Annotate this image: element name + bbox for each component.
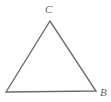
triangle-shape	[0, 0, 111, 102]
vertex-label-c: C	[45, 4, 52, 15]
geometry-figure: C B	[0, 0, 111, 102]
vertex-label-b: B	[100, 87, 107, 98]
triangle-outline	[6, 21, 96, 92]
